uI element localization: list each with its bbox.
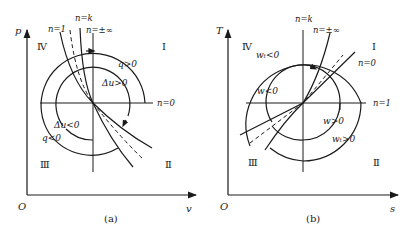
quadrant-ii-b: Ⅱ <box>373 157 380 168</box>
quadrant-iv-a: Ⅳ <box>37 41 48 52</box>
region-label-wt-pos: wₜ>0 <box>332 134 355 144</box>
curve-label-n1-a: n=1 <box>48 24 66 34</box>
region-label-du-neg: Δu<0 <box>53 120 80 130</box>
caption-a: (a) <box>104 213 118 224</box>
t-axis-label: T <box>216 25 224 36</box>
quadrant-iii-a: Ⅲ <box>40 159 50 170</box>
p-axis-label: p <box>15 25 22 36</box>
region-label-w-neg: w<0 <box>257 86 278 96</box>
quadrant-iii-b: Ⅲ <box>248 157 258 168</box>
origin-label-b: O <box>220 201 228 212</box>
inner-arc-du-arrow <box>124 120 126 124</box>
origin-label-a: O <box>18 201 26 212</box>
curve-label-n0-a: n=0 <box>157 98 176 108</box>
curve-label-nk-b: n=k <box>295 14 313 24</box>
curve-label-ninf-a: n=±∞ <box>86 25 113 35</box>
isothermal-curve-n1 <box>60 32 152 148</box>
curve-label-ninf-b: n=±∞ <box>313 25 340 35</box>
quadrant-iv-b: Ⅳ <box>242 41 253 52</box>
region-label-q-neg: q<0 <box>42 133 61 143</box>
region-label-du-pos: Δu>0 <box>101 78 128 88</box>
polytropic-process-diagram: p v O Ⅳ Ⅰ Ⅲ Ⅱ n=1 n=k n=±∞ n=0 q>0 Δu>0 … <box>0 0 408 231</box>
s-axis-label: s <box>390 203 395 214</box>
caption-b: (b) <box>306 213 320 224</box>
panel-a-labels: p v O Ⅳ Ⅰ Ⅲ Ⅱ n=1 n=k n=±∞ n=0 q>0 Δu>0 … <box>15 13 192 224</box>
inner-arc-du-lower <box>66 129 93 140</box>
quadrant-ii-a: Ⅱ <box>165 159 172 170</box>
region-label-wt-neg: wₜ<0 <box>256 50 279 60</box>
quadrant-i-b: Ⅰ <box>372 41 376 52</box>
curve-label-n1-b: n=1 <box>373 98 391 108</box>
region-label-q-pos: q>0 <box>118 59 137 69</box>
panel-b-ts-diagram <box>228 30 398 195</box>
region-label-w-pos: w>0 <box>323 116 344 126</box>
v-axis-label: v <box>186 203 192 214</box>
panel-b-labels: T s O Ⅳ Ⅰ Ⅲ Ⅱ n=k n=±∞ n=0 n=1 wₜ<0 w<0 … <box>216 14 395 224</box>
curve-label-nk-a: n=k <box>75 13 93 23</box>
quadrant-i-a: Ⅰ <box>162 41 166 52</box>
curve-label-n0-b: n=0 <box>358 58 377 68</box>
